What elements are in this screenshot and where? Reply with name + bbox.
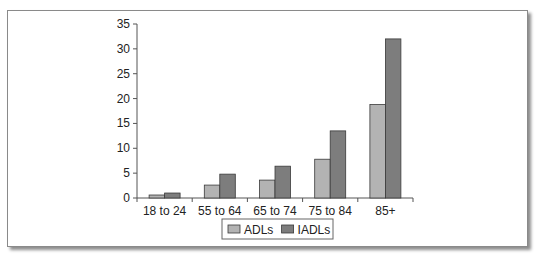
- legend-label-adls: ADLs: [244, 223, 273, 237]
- bar-iadls-3: [330, 131, 346, 198]
- bar-iadls-4: [385, 39, 401, 198]
- bar-iadls-0: [165, 193, 181, 198]
- y-tick-label: 15: [117, 116, 131, 130]
- bars: [149, 39, 401, 198]
- y-tick-label: 30: [117, 42, 131, 56]
- y-tick-label: 5: [123, 166, 130, 180]
- legend-swatch-adls: [228, 225, 240, 233]
- x-tick-label: 85+: [375, 204, 395, 218]
- legend-swatch-iadls: [282, 225, 294, 233]
- x-tick-label: 18 to 24: [143, 204, 187, 218]
- y-tick-label: 0: [123, 191, 130, 205]
- x-tick-label: 55 to 64: [198, 204, 242, 218]
- bar-adls-1: [204, 185, 220, 198]
- bar-adls-0: [149, 195, 165, 198]
- bar-adls-2: [260, 180, 276, 198]
- bar-iadls-1: [220, 174, 236, 198]
- legend: ADLsIADLs: [222, 219, 333, 239]
- y-tick-label: 10: [117, 141, 131, 155]
- x-tick-label: 75 to 84: [309, 204, 353, 218]
- y-tick-label: 20: [117, 92, 131, 106]
- bar-adls-4: [370, 105, 386, 198]
- bar-chart: 0510152025303518 to 2455 to 6465 to 7475…: [0, 0, 539, 259]
- bar-iadls-2: [275, 166, 291, 198]
- bar-adls-3: [315, 159, 331, 198]
- y-tick-label: 25: [117, 67, 131, 81]
- x-tick-label: 65 to 74: [253, 204, 297, 218]
- legend-label-iadls: IADLs: [298, 223, 331, 237]
- y-tick-label: 35: [117, 17, 131, 31]
